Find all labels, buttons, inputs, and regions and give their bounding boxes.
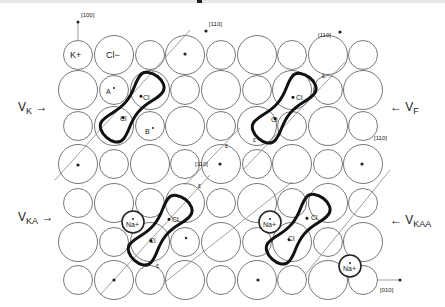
direction-110-line xyxy=(100,175,210,295)
direction-lines xyxy=(55,21,402,296)
svg-text:ε: ε xyxy=(198,182,201,189)
cl-ion xyxy=(59,71,98,110)
svg-text:[110]: [110] xyxy=(374,135,387,141)
k-ion xyxy=(136,41,165,70)
vka-label: VKA → xyxy=(18,210,53,226)
k-ion xyxy=(278,41,307,70)
lattice-grid xyxy=(59,36,383,300)
k-ion xyxy=(207,189,236,218)
svg-text:Cl: Cl xyxy=(143,94,150,101)
cl-ion xyxy=(344,71,383,110)
svg-text:ε: ε xyxy=(225,142,228,149)
arrow-left-icon: ← xyxy=(390,213,402,227)
svg-text:[110]: [110] xyxy=(209,21,222,27)
k-ion xyxy=(100,76,129,105)
cl-ion xyxy=(273,145,312,184)
labels: Na+Na+Na+ClClClClClClClClK+Cl−AB[100][11… xyxy=(70,12,394,293)
svg-text:Na+: Na+ xyxy=(343,265,356,272)
svg-text:ε: ε xyxy=(322,72,325,79)
svg-text:ε: ε xyxy=(156,262,159,269)
cl-ion xyxy=(309,107,348,146)
cl-ion xyxy=(166,107,205,146)
k-ion xyxy=(207,41,236,70)
svg-text:Na+: Na+ xyxy=(263,221,276,228)
k-ion xyxy=(314,228,343,257)
cl-ion xyxy=(202,223,241,262)
k-ion xyxy=(207,266,236,295)
vk-label: VK → xyxy=(18,100,47,116)
k-ion xyxy=(100,228,129,257)
svg-text:B: B xyxy=(145,128,150,135)
svg-text:[110]: [110] xyxy=(195,161,208,167)
cl-ion xyxy=(59,223,98,262)
k-ion xyxy=(278,266,307,295)
svg-text:K+: K+ xyxy=(70,50,81,60)
k-ion xyxy=(136,266,165,295)
k-ion xyxy=(349,41,378,70)
k-ion xyxy=(314,150,343,179)
svg-text:Cl: Cl xyxy=(271,116,278,123)
svg-text:Cl: Cl xyxy=(149,237,156,244)
svg-text:Cl−: Cl− xyxy=(106,50,120,60)
cl2-molecule xyxy=(96,68,169,147)
k-ion xyxy=(100,150,129,179)
k-ion xyxy=(171,228,200,257)
svg-text:Cl: Cl xyxy=(311,214,318,221)
cl-ion xyxy=(309,36,348,75)
svg-text:[010]: [010] xyxy=(380,287,394,293)
vf-label: ← VF xyxy=(390,100,419,116)
cl-ion xyxy=(202,71,241,110)
svg-text:Na+: Na+ xyxy=(126,221,139,228)
direction-110-line xyxy=(243,62,345,170)
svg-text:[100]: [100] xyxy=(81,12,95,18)
svg-text:A: A xyxy=(106,88,111,95)
arrow-right-icon: → xyxy=(35,100,47,114)
cl-ion xyxy=(238,107,277,146)
k-ion xyxy=(64,112,93,141)
svg-text:[110]: [110] xyxy=(318,32,331,38)
k-ion xyxy=(171,76,200,105)
k-ion xyxy=(207,112,236,141)
svg-text:ε: ε xyxy=(253,136,256,143)
k-ion xyxy=(243,150,272,179)
direction-110-line xyxy=(185,128,240,185)
kcl-lattice-diagram: Na+Na+Na+ClClClClClClClClK+Cl−AB[100][11… xyxy=(0,0,445,307)
cl-ion xyxy=(238,36,277,75)
svg-text:Cl: Cl xyxy=(288,235,295,242)
cl-ion xyxy=(131,145,170,184)
k-ion xyxy=(136,112,165,141)
arrow-right-icon: → xyxy=(41,210,53,224)
k-ion xyxy=(64,189,93,218)
svg-text:Cl: Cl xyxy=(296,94,303,101)
k-ion xyxy=(64,266,93,295)
arrow-left-icon: ← xyxy=(390,100,402,114)
svg-text:Cl: Cl xyxy=(172,216,179,223)
svg-text:Cl: Cl xyxy=(120,115,127,122)
vkaa-label: ← VKAA xyxy=(390,213,431,229)
k-ion xyxy=(243,76,272,105)
